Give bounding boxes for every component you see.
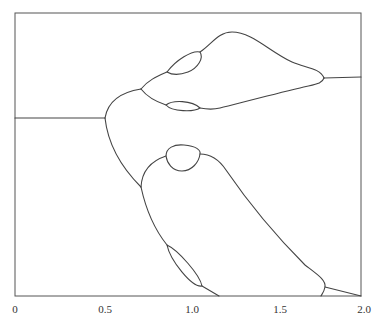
upper-arm xyxy=(105,89,141,118)
lower-right-tail xyxy=(325,287,361,296)
lower-lobe-left xyxy=(141,156,166,187)
upper-blob-top xyxy=(200,32,324,78)
upper-loop-top xyxy=(141,72,167,89)
lower-exit-line xyxy=(202,286,219,296)
x-tick-0-5: 0.5 xyxy=(98,303,112,315)
x-tick-0: 0 xyxy=(12,303,18,315)
middle-small-oval xyxy=(166,102,200,111)
lower-arm xyxy=(105,118,141,187)
upper-loop-bottom xyxy=(141,89,166,105)
x-tick-1-0: 1.0 xyxy=(185,303,199,315)
x-tick-1-5: 1.5 xyxy=(273,303,287,315)
upper-blob-bottom xyxy=(200,78,324,109)
lower-top-bubble xyxy=(166,145,200,171)
bifurcation-plot xyxy=(0,0,379,324)
upper-small-oval xyxy=(167,52,201,75)
lower-lobe-right xyxy=(200,154,325,296)
lower-elongated-oval xyxy=(167,245,202,286)
lower-lobe-left-descent xyxy=(141,187,167,245)
x-tick-2-0: 2.0 xyxy=(357,303,371,315)
upper-right-tail xyxy=(324,77,361,78)
plot-frame xyxy=(15,13,361,296)
